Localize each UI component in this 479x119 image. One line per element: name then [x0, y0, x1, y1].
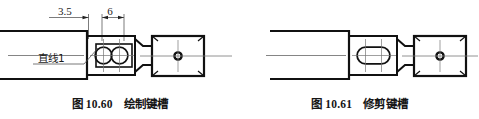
- shaft-neck: [135, 39, 152, 72]
- caption-number-10-60: 图 10.60: [72, 98, 113, 110]
- figure-draw-keyway: 3.5 6: [0, 0, 240, 119]
- cad-drawing-trim-keyway: [240, 0, 479, 95]
- caption-text-10-60: 绘制键槽: [124, 97, 169, 111]
- caption-text-10-61: 修剪键槽: [363, 97, 408, 111]
- shaft-neck: [397, 39, 414, 72]
- neck-top-chamfer: [397, 39, 414, 46]
- neck-bottom-chamfer: [397, 65, 414, 72]
- cad-drawing-draw-keyway: 3.5 6: [0, 0, 240, 95]
- figure-trim-keyway: 图 10.61修剪键槽: [240, 0, 479, 119]
- dim-arrow-3-5: [83, 16, 89, 19]
- dim-label-3-5: 3.5: [58, 5, 72, 17]
- figure-caption-10-61: 图 10.61修剪键槽: [240, 95, 479, 111]
- neck-top-chamfer: [135, 39, 152, 46]
- annotation-line-1: 直线1: [33, 48, 98, 64]
- drawing-page: 3.5 6: [0, 0, 479, 119]
- dim-arrow-6-right: [118, 16, 124, 19]
- figure-caption-10-60: 图 10.60绘制键槽: [0, 95, 240, 111]
- neck-bottom-chamfer: [135, 65, 152, 72]
- note-label-line-1: 直线1: [38, 52, 65, 64]
- caption-number-10-61: 图 10.61: [311, 98, 352, 110]
- shaft-body-outline: [270, 30, 350, 80]
- dim-label-6: 6: [107, 5, 113, 17]
